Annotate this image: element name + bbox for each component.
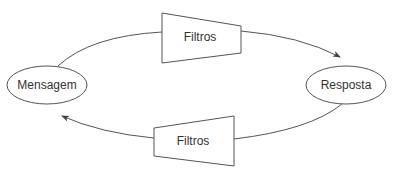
connector-message-to-top-filter [58,32,162,66]
message-node: Mensagem [7,66,87,104]
communication-cycle-diagram: Mensagem Resposta Filtros Filtros [0,0,406,177]
response-label: Resposta [321,78,372,92]
bottom-filter-node: Filtros [154,116,234,166]
top-filter-node: Filtros [162,13,241,63]
connector-top-filter-to-response [241,31,340,57]
connector-response-to-bottom-filter [234,104,342,139]
connector-bottom-filter-to-message [62,116,154,138]
bottom-filter-label: Filtros [177,134,210,148]
response-node: Resposta [306,66,386,104]
message-label: Mensagem [17,78,76,92]
top-filter-label: Filtros [184,30,217,44]
